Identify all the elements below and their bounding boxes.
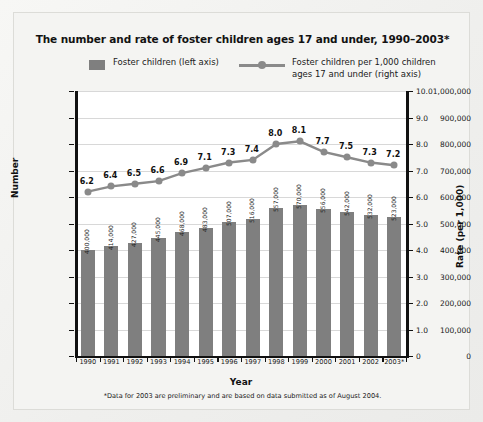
y-axis-right-tick: [408, 171, 413, 172]
rate-data-point: [131, 180, 138, 187]
y-axis-right-tick-label: 8.0: [416, 140, 446, 149]
rate-data-point: [344, 154, 351, 161]
y-axis-left-tick: [69, 277, 74, 278]
y-axis-left-tick: [69, 118, 74, 119]
x-axis-tick-label: 1996: [217, 358, 241, 366]
x-axis-tick: [147, 357, 148, 362]
rate-data-point: [296, 138, 303, 145]
y-axis-left-tick: [69, 303, 74, 304]
y-axis-right-tick-label: 1.0: [416, 325, 446, 334]
bar-value-label: 516,000: [248, 198, 255, 223]
plot-area-wrapper: Number Rate (per 1,000) Year 0100,000200…: [14, 13, 471, 411]
chart-footnote: *Data for 2003 are preliminary and are b…: [14, 392, 471, 400]
chart-panel: The number and rate of foster children a…: [13, 12, 470, 410]
x-axis-tick: [382, 357, 383, 362]
rate-data-point: [273, 141, 280, 148]
rate-data-point: [108, 183, 115, 190]
y-axis-right-tick-label: 2.0: [416, 299, 446, 308]
bar-value-label: 507,000: [225, 201, 232, 226]
y-axis-right-tick-label: 0: [416, 352, 446, 361]
y-axis-right-tick: [408, 144, 413, 145]
bar-value-label: 445,000: [154, 217, 161, 242]
rate-data-point: [391, 162, 398, 169]
x-axis-tick: [359, 357, 360, 362]
rate-data-point: [155, 178, 162, 185]
rate-value-label: 8.0: [268, 129, 282, 138]
y-axis-right-tick: [408, 91, 413, 92]
rate-value-label: 7.4: [245, 145, 259, 154]
y-axis-right-tick-label: 9.0: [416, 113, 446, 122]
x-axis-tick: [217, 357, 218, 362]
y-axis-right-tick-label: 10.0: [416, 87, 446, 96]
x-axis-tick: [170, 357, 171, 362]
y-axis-right-tick: [408, 118, 413, 119]
y-axis-left-tick: [69, 250, 74, 251]
x-axis-title: Year: [76, 377, 406, 387]
plot-area: [76, 91, 406, 356]
x-axis-tick-label: 2003*: [382, 358, 406, 366]
y-axis-right-tick-label: 3.0: [416, 272, 446, 281]
x-axis-tick: [312, 357, 313, 362]
y-axis-right-tick-label: 5.0: [416, 219, 446, 228]
x-axis-tick-label: 1995: [194, 358, 218, 366]
x-axis-tick-label: 1999: [288, 358, 312, 366]
rate-value-label: 7.1: [198, 153, 212, 162]
x-axis-tick: [123, 357, 124, 362]
y-axis-right-tick-label: 7.0: [416, 166, 446, 175]
figure-background: The number and rate of foster children a…: [0, 0, 483, 422]
bar-value-label: 557,000: [272, 188, 279, 213]
x-axis-tick: [288, 357, 289, 362]
rate-value-label: 7.3: [363, 148, 377, 157]
bar-value-label: 427,000: [130, 222, 137, 247]
rate-data-point: [226, 159, 233, 166]
x-axis-tick: [265, 357, 266, 362]
x-axis-tick: [194, 357, 195, 362]
y-axis-right-tick-label: 4.0: [416, 246, 446, 255]
y-axis-left-tick: [69, 356, 74, 357]
rate-value-label: 7.5: [339, 142, 353, 151]
rate-value-label: 6.4: [103, 171, 117, 180]
rate-data-point: [179, 170, 186, 177]
x-axis-tick: [406, 357, 407, 362]
x-axis-tick-label: 1991: [100, 358, 124, 366]
y-axis-left-tick: [69, 197, 74, 198]
y-axis-right-tick: [408, 277, 413, 278]
y-axis-right-tick: [408, 250, 413, 251]
y-axis-left: [75, 91, 78, 357]
x-axis-tick-label: 1992: [123, 358, 147, 366]
x-axis-tick-label: 1993: [147, 358, 171, 366]
x-axis-tick-label: 1997: [241, 358, 265, 366]
x-axis-tick-label: 2002: [359, 358, 383, 366]
x-axis-tick-label: 1998: [265, 358, 289, 366]
y-axis-right-tick: [408, 224, 413, 225]
x-axis-tick: [241, 357, 242, 362]
rate-value-label: 7.3: [221, 148, 235, 157]
bar-value-label: 414,000: [107, 225, 114, 250]
x-axis-tick: [335, 357, 336, 362]
rate-data-point: [202, 164, 209, 171]
bar-value-label: 542,000: [343, 192, 350, 217]
rate-value-label: 7.2: [386, 150, 400, 159]
x-axis-tick: [76, 357, 77, 362]
rate-value-label: 6.6: [150, 166, 164, 175]
rate-value-label: 6.9: [174, 158, 188, 167]
y-axis-right-tick: [408, 356, 413, 357]
rate-value-label: 8.1: [292, 126, 306, 135]
bar-value-label: 400,000: [83, 229, 90, 254]
rate-value-label: 6.5: [127, 169, 141, 178]
rate-line-series: [76, 91, 406, 356]
y-axis-left-tick: [69, 330, 74, 331]
rate-data-point: [320, 148, 327, 155]
rate-data-point: [249, 156, 256, 163]
bar-value-label: 523,000: [390, 197, 397, 222]
y-axis-right-tick: [408, 197, 413, 198]
bar-value-label: 483,000: [201, 207, 208, 232]
x-axis-tick-label: 2000: [312, 358, 336, 366]
rate-data-point: [84, 188, 91, 195]
y-axis-right-tick: [408, 303, 413, 304]
bar-value-label: 556,000: [319, 188, 326, 213]
rate-value-label: 7.7: [315, 137, 329, 146]
bar-value-label: 468,000: [178, 211, 185, 236]
bar-value-label: 570,000: [295, 184, 302, 209]
y-axis-right-tick-label: 6.0: [416, 193, 446, 202]
